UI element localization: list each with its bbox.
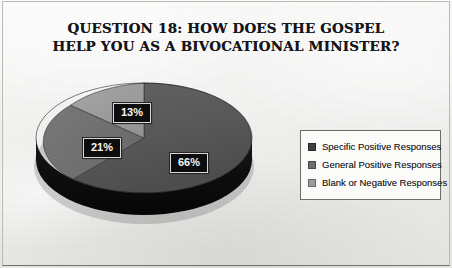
legend-item-general-positive: General Positive Responses [308, 157, 434, 173]
legend-label-general-positive: General Positive Responses [322, 160, 442, 170]
legend-swatch-specific-positive [308, 143, 316, 151]
data-label-general-positive: 21% [83, 138, 121, 158]
chart-title-line-2: HELP YOU AS A BIVOCATIONAL MINISTER? [0, 37, 452, 55]
legend-swatch-general-positive [308, 161, 316, 169]
pie-chart [28, 76, 264, 246]
data-label-specific-positive: 66% [170, 153, 208, 173]
legend-label-blank-negative: Blank or Negative Responses [322, 178, 447, 188]
legend-swatch-blank-negative [308, 179, 316, 187]
legend-item-specific-positive: Specific Positive Responses [308, 139, 434, 155]
legend-item-blank-negative: Blank or Negative Responses [308, 175, 434, 191]
chart-title-line-1: QUESTION 18: HOW DOES THE GOSPEL [0, 19, 452, 37]
figure-container: QUESTION 18: HOW DOES THE GOSPEL HELP YO… [0, 0, 452, 268]
legend-label-specific-positive: Specific Positive Responses [322, 142, 441, 152]
chart-title: QUESTION 18: HOW DOES THE GOSPEL HELP YO… [0, 19, 452, 55]
pie-chart-svg [28, 76, 264, 246]
chart-legend: Specific Positive Responses General Posi… [300, 130, 441, 200]
data-label-blank-negative: 13% [113, 103, 151, 123]
